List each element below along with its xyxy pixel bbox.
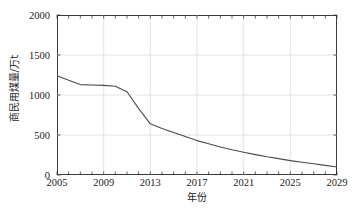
chart-figure: 2005200920132017202120252029 05001000150… [0,0,356,214]
x-tick-label: 2013 [128,177,172,189]
x-axis-title: 年份 [57,192,337,204]
y-tick-label: 1000 [0,90,50,101]
x-tick-label: 2009 [82,177,126,189]
y-tick-label: 0 [0,170,50,181]
y-tick-label: 1500 [0,50,50,61]
y-tick-label: 500 [0,130,50,141]
y-axis-title: 商民用煤量/万t [9,29,20,149]
x-tick-label: 2017 [175,177,219,189]
x-tick-label: 2021 [222,177,266,189]
x-tick-label: 2029 [315,177,356,189]
plot-area [57,15,337,175]
y-tick-label: 2000 [0,10,50,21]
x-tick-label: 2025 [268,177,312,189]
